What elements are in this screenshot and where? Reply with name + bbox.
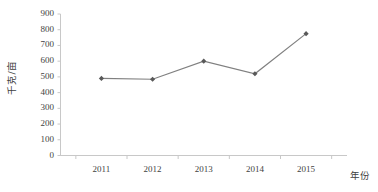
x-axis-tick-label: 2015 [297, 165, 315, 174]
x-axis-tick-label: 2012 [144, 165, 162, 174]
x-axis-tick-label: 2014 [246, 165, 264, 174]
x-axis-tick-labels: 20112012201320142015 [0, 0, 378, 192]
x-axis-tick-label: 2013 [195, 165, 213, 174]
x-axis-title: 年份 [350, 168, 370, 182]
line-chart: 千克/亩 0100200300400500600700800900 201120… [0, 0, 378, 192]
x-axis-tick-label: 2011 [93, 165, 111, 174]
